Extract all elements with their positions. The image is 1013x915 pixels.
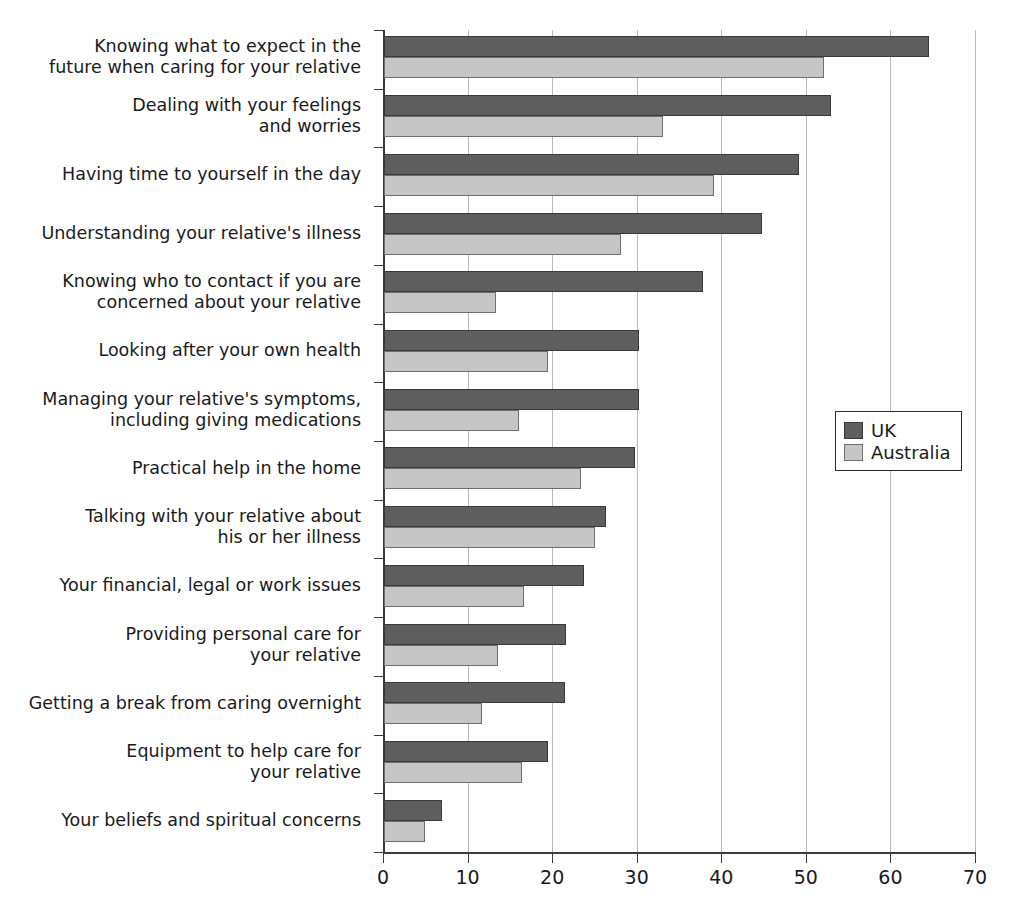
bar-uk — [384, 154, 799, 175]
bar-australia — [384, 645, 498, 666]
x-axis-tick — [975, 854, 976, 863]
category-label: Having time to yourself in the day — [0, 164, 372, 185]
bar-uk — [384, 36, 929, 57]
legend-label-australia: Australia — [871, 442, 951, 463]
legend: UK Australia — [835, 411, 962, 471]
x-axis-tick-label: 40 — [709, 866, 733, 888]
bar-uk — [384, 624, 566, 645]
bar-australia — [384, 234, 621, 255]
x-axis-tick — [637, 854, 638, 863]
x-axis-tick — [552, 854, 553, 863]
category-label: Practical help in the home — [0, 458, 372, 479]
category-label: Your financial, legal or work issues — [0, 575, 372, 596]
legend-item-uk: UK — [844, 419, 951, 441]
x-axis-tick — [806, 854, 807, 863]
x-axis-line — [383, 852, 976, 854]
x-axis-tick-label: 30 — [625, 866, 649, 888]
legend-swatch-uk-icon — [844, 422, 863, 439]
y-axis-tick — [374, 147, 383, 148]
y-axis-tick — [374, 89, 383, 90]
x-axis-tick-label: 70 — [963, 866, 987, 888]
category-label: Equipment to help care for your relative — [0, 741, 372, 783]
bar-uk — [384, 741, 548, 762]
bar-uk — [384, 271, 703, 292]
gridline — [806, 30, 807, 852]
category-label: Knowing what to expect in the future whe… — [0, 36, 372, 78]
x-axis-tick — [721, 854, 722, 863]
bar-uk — [384, 95, 831, 116]
x-axis-tick-label: 60 — [878, 866, 902, 888]
x-axis-tick — [890, 854, 891, 863]
x-axis-tick-label: 20 — [540, 866, 564, 888]
x-axis-tick — [383, 854, 384, 863]
y-axis-tick — [374, 324, 383, 325]
y-axis-tick — [374, 676, 383, 677]
y-axis-tick — [374, 382, 383, 383]
category-label: Looking after your own health — [0, 340, 372, 361]
y-axis-tick — [374, 441, 383, 442]
category-label: Understanding your relative's illness — [0, 223, 372, 244]
bar-uk — [384, 330, 639, 351]
y-axis-tick — [374, 852, 383, 853]
bar-uk — [384, 389, 639, 410]
bar-australia — [384, 586, 524, 607]
y-axis-tick — [374, 500, 383, 501]
bar-australia — [384, 351, 548, 372]
y-axis-tick — [374, 735, 383, 736]
bar-chart: Knowing what to expect in the future whe… — [0, 0, 1013, 915]
bar-uk — [384, 682, 565, 703]
y-axis-tick — [374, 206, 383, 207]
y-axis-tick — [374, 617, 383, 618]
category-label: Managing your relative's symptoms, inclu… — [0, 389, 372, 431]
bar-australia — [384, 116, 663, 137]
bar-uk — [384, 447, 635, 468]
legend-swatch-australia-icon — [844, 444, 863, 461]
category-label: Providing personal care for your relativ… — [0, 624, 372, 666]
bar-uk — [384, 800, 442, 821]
legend-item-australia: Australia — [844, 441, 951, 463]
category-label: Your beliefs and spiritual concerns — [0, 810, 372, 831]
bar-uk — [384, 506, 606, 527]
legend-label-uk: UK — [871, 420, 896, 441]
bar-australia — [384, 175, 714, 196]
y-axis-tick — [374, 793, 383, 794]
category-label: Dealing with your feelings and worries — [0, 95, 372, 137]
bar-australia — [384, 703, 482, 724]
bar-australia — [384, 527, 595, 548]
category-label: Knowing who to contact if you are concer… — [0, 271, 372, 313]
bar-uk — [384, 213, 762, 234]
x-axis-tick-label: 50 — [794, 866, 818, 888]
category-label: Getting a break from caring overnight — [0, 693, 372, 714]
y-axis-tick — [374, 265, 383, 266]
y-axis-tick — [374, 30, 383, 31]
bar-australia — [384, 821, 425, 842]
y-axis-tick — [374, 558, 383, 559]
bar-australia — [384, 762, 522, 783]
x-axis-tick — [468, 854, 469, 863]
x-axis-tick-label: 10 — [455, 866, 479, 888]
x-axis-tick-label: 0 — [377, 866, 389, 888]
bar-australia — [384, 468, 581, 489]
gridline — [975, 30, 976, 852]
bar-australia — [384, 410, 519, 431]
bar-australia — [384, 292, 496, 313]
bar-australia — [384, 57, 824, 78]
category-label: Talking with your relative about his or … — [0, 506, 372, 548]
bar-uk — [384, 565, 584, 586]
